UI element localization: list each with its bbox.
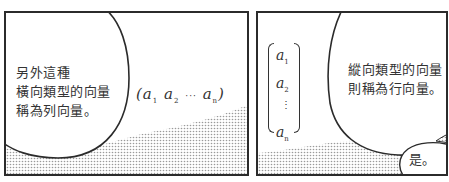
speech-line: 縱向類型的向量 xyxy=(348,60,443,79)
speech-text: 縱向類型的向量 則稱為行向量。 xyxy=(348,60,443,98)
vector-entry: an xyxy=(203,85,218,103)
close-paren: ) xyxy=(218,85,225,103)
vector-entry: a2 xyxy=(164,85,179,103)
reply-text: 是。 xyxy=(409,149,435,168)
open-paren: ( xyxy=(136,85,143,103)
ellipsis: ··· xyxy=(185,91,197,101)
row-vector: (a1 a2 ··· an) xyxy=(136,85,225,105)
speech-line: 稱為列向量。 xyxy=(16,101,111,120)
column-entries: a1 a2 ⋮ an xyxy=(276,45,291,149)
comic-panel-2: a1 a2 ⋮ an 縱向類型的向量 則稱為行向量。 是。 xyxy=(256,11,448,176)
speech-line: 另外這種 xyxy=(16,63,111,82)
comic-panel-1: 另外這種 橫向類型的向量 稱為列向量。 (a1 a2 ··· an) xyxy=(4,11,249,176)
vertical-ellipsis: ⋮ xyxy=(276,101,291,122)
column-vector: a1 a2 ⋮ an xyxy=(268,43,300,135)
speech-line: 則稱為行向量。 xyxy=(348,79,443,98)
left-paren xyxy=(268,43,274,133)
vector-entry: a1 xyxy=(276,45,291,73)
right-paren xyxy=(294,43,300,133)
speech-text: 另外這種 橫向類型的向量 稱為列向量。 xyxy=(16,63,111,120)
vector-entry: a2 xyxy=(276,73,291,101)
speech-line: 橫向類型的向量 xyxy=(16,82,111,101)
vector-entry: a1 xyxy=(143,85,158,103)
vector-entry: an xyxy=(276,122,291,150)
